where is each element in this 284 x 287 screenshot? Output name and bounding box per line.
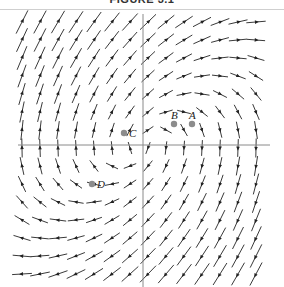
point-label-b: B: [171, 109, 178, 121]
point-a: [189, 121, 195, 127]
direction-field-arrows: [12, 10, 266, 285]
point-label-c: C: [129, 127, 137, 139]
point-b: [171, 121, 177, 127]
point-label-a: A: [188, 109, 196, 121]
point-c: [121, 130, 127, 136]
labeled-points: ABCD: [89, 109, 196, 190]
point-label-d: D: [96, 178, 105, 190]
point-d: [89, 181, 95, 187]
direction-field-plot: ABCD: [0, 0, 284, 287]
